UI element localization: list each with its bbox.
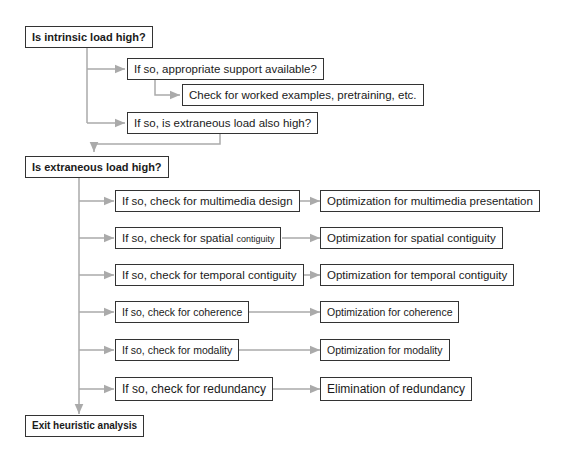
node-check-temporal: If so, check for temporal contiguity — [115, 264, 304, 286]
node-opt-spatial: Optimization for spatial contiguity — [320, 227, 503, 249]
node-check-multimedia: If so, check for multimedia design — [115, 190, 300, 212]
node-extraneous-load: Is extraneous load high? — [25, 156, 169, 178]
node-check-modality: If so, check for modality — [115, 339, 239, 361]
check-spatial-text: If so, check for spatial — [122, 232, 236, 244]
node-opt-coherence: Optimization for coherence — [320, 301, 459, 323]
node-worked-examples: Check for worked examples, pretraining, … — [182, 84, 424, 106]
node-intrinsic-load: Is intrinsic load high? — [25, 26, 153, 48]
node-exit-analysis: Exit heuristic analysis — [25, 415, 144, 437]
node-opt-multimedia: Optimization for multimedia presentation — [320, 190, 540, 212]
node-elim-redundancy: Elimination of redundancy — [320, 377, 472, 401]
node-extraneous-also-high: If so, is extraneous load also high? — [127, 112, 318, 134]
node-check-coherence: If so, check for coherence — [115, 301, 249, 323]
node-support-available: If so, appropriate support available? — [127, 58, 324, 80]
node-check-spatial: If so, check for spatial contiguity — [115, 227, 281, 249]
node-check-redundancy: If so, check for redundancy — [115, 377, 273, 401]
node-opt-modality: Optimization for modality — [320, 339, 450, 361]
node-opt-temporal: Optimization for temporal contiguity — [320, 264, 514, 286]
check-spatial-small-text: contiguity — [236, 234, 274, 244]
